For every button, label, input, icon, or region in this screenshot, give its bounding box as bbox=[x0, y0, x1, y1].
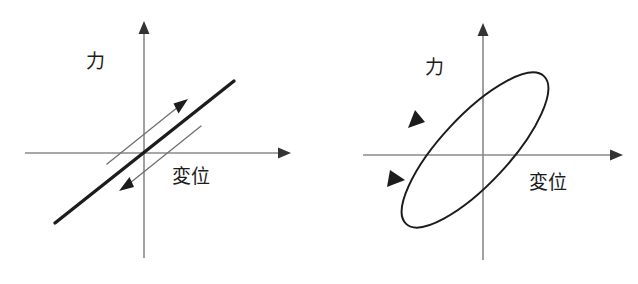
y-axis-label-right: 力 bbox=[425, 56, 444, 78]
x-axis-right bbox=[363, 150, 623, 161]
y-axis-right bbox=[478, 23, 489, 260]
x-axis-label-left: 変位 bbox=[172, 165, 210, 187]
panel-hysteresis-loop: 力 変位 bbox=[319, 0, 638, 284]
figure-root: 力 変位 bbox=[0, 0, 638, 284]
loading-arrow-left bbox=[107, 99, 188, 164]
hysteresis-loop-curve bbox=[381, 53, 568, 247]
y-axis-left bbox=[139, 21, 150, 258]
y-axis-label-left: 力 bbox=[86, 50, 105, 72]
loop-arrow-lower bbox=[387, 170, 405, 187]
panel-linear-elastic: 力 変位 bbox=[0, 0, 319, 284]
loop-arrow-upper bbox=[408, 110, 425, 128]
x-axis-left bbox=[25, 148, 291, 159]
x-axis-label-right: 変位 bbox=[529, 171, 567, 193]
